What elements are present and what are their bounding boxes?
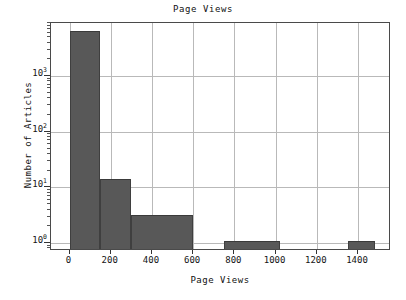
y-minor-tick (47, 28, 50, 29)
y-minor-tick (47, 114, 50, 115)
x-tick-label-1400: 1400 (333, 255, 381, 265)
y-tick-label-1e0: 100 (32, 235, 47, 245)
y-minor-tick (47, 22, 50, 23)
y-minor-tick (47, 170, 50, 171)
chart-figure: Page Views 0200400600800100012001400 100… (0, 0, 406, 300)
gridline-x-800 (234, 23, 235, 249)
bar-2 (131, 215, 193, 249)
x-tick-mark-600 (192, 250, 193, 254)
gridline-x-1000 (276, 23, 277, 249)
y-minor-tick (47, 245, 50, 246)
y-tick-label-1e3: 103 (32, 68, 47, 78)
bar-top-edge (101, 179, 130, 180)
y-minor-tick (47, 58, 50, 59)
x-axis-label: Page Views (50, 275, 390, 285)
y-minor-tick (47, 80, 50, 81)
x-tick-mark-1400 (357, 250, 358, 254)
y-axis-label: Number of Articles (23, 55, 33, 215)
gridline-x-1200 (317, 23, 318, 249)
y-minor-tick (47, 49, 50, 50)
y-minor-tick (47, 32, 50, 33)
x-tick-mark-200 (110, 250, 111, 254)
x-tick-mark-400 (151, 250, 152, 254)
bar-3 (224, 241, 280, 249)
plot-area (50, 22, 390, 250)
y-minor-tick (47, 143, 50, 144)
bar-top-edge (71, 31, 100, 32)
gridline-x-1400 (358, 23, 359, 249)
y-minor-tick (47, 87, 50, 88)
y-minor-tick (47, 189, 50, 190)
y-minor-tick (47, 104, 50, 105)
y-minor-tick (47, 136, 50, 137)
gridline-y-10e2 (51, 132, 389, 133)
y-minor-tick (47, 78, 50, 79)
y-minor-tick (47, 36, 50, 37)
bar-1 (100, 179, 131, 249)
y-tick-label-1e1: 101 (32, 179, 47, 189)
y-minor-tick (47, 195, 50, 196)
y-minor-tick (47, 92, 50, 93)
y-minor-tick (47, 25, 50, 26)
y-minor-tick (47, 133, 50, 134)
x-tick-mark-1000 (275, 250, 276, 254)
bar-0 (70, 31, 101, 249)
y-minor-tick (47, 192, 50, 193)
y-minor-tick (47, 225, 50, 226)
gridline-y-10e3 (51, 76, 389, 77)
x-tick-mark-800 (233, 250, 234, 254)
y-minor-tick (47, 84, 50, 85)
y-minor-tick (47, 216, 50, 217)
x-tick-mark-1200 (316, 250, 317, 254)
y-minor-tick (47, 247, 50, 248)
bar-top-edge (349, 241, 374, 242)
bar-4 (348, 241, 375, 249)
y-minor-tick (47, 160, 50, 161)
y-minor-tick (47, 97, 50, 98)
y-minor-tick (47, 42, 50, 43)
y-minor-tick (47, 153, 50, 154)
y-minor-tick (47, 203, 50, 204)
bar-top-edge (132, 215, 192, 216)
y-tick-label-1e2: 102 (32, 124, 47, 134)
x-tick-mark-0 (69, 250, 70, 254)
y-minor-tick (47, 209, 50, 210)
y-minor-tick (47, 148, 50, 149)
y-minor-tick (47, 139, 50, 140)
chart-title: Page Views (0, 4, 406, 14)
y-minor-tick (47, 199, 50, 200)
bar-top-edge (225, 241, 279, 242)
